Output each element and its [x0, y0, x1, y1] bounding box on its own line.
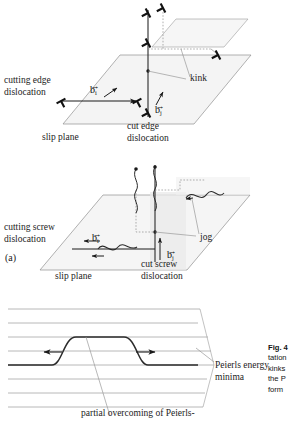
burgers-label-bi-screw: →bi [92, 232, 99, 244]
label-cutting-screw-dislocation: cutting screw dislocation [4, 222, 55, 245]
label-partial-overcoming: partial overcoming of Peierls- [81, 408, 195, 419]
caption-line-2: tation [268, 353, 302, 363]
label-cutting-edge-dislocation: cutting edge dislocation [4, 75, 51, 98]
upper-plane-fragment [152, 19, 248, 47]
caption-figure-number: Fig. 4 [268, 343, 288, 352]
perspective-edge-bottom [203, 365, 214, 407]
label-peierls-energy-minima: Peierls energy minima [215, 360, 269, 383]
label-slip-plane-edge: slip plane [42, 132, 79, 143]
label-cut-edge-dislocation: cut edge dislocation [127, 121, 169, 144]
figure-caption: Fig. 4 tation kinks the P form [268, 343, 302, 395]
caption-line-3: kinks [268, 364, 302, 374]
caption-line-5: form [268, 385, 302, 395]
peierls-kink-pair-diagram [0, 296, 302, 421]
panel-label-a: (a) [5, 252, 16, 263]
annotation-leader-line [86, 337, 110, 416]
burgers-label-bj-screw: →bj [167, 249, 174, 261]
label-slip-plane-screw: slip plane [55, 271, 92, 282]
burgers-label-bj-edge: →bj [155, 104, 162, 116]
burgers-label-bi-edge: →bi [90, 84, 97, 96]
label-kink: kink [190, 73, 207, 84]
label-cut-screw-dislocation: cut screw dislocation [141, 259, 183, 282]
label-jog: jog [200, 232, 212, 243]
caption-line-4: the P [268, 374, 302, 384]
peierls-valley-lines [8, 309, 214, 407]
figure-root: cutting edge dislocation cut edge disloc… [0, 0, 302, 421]
